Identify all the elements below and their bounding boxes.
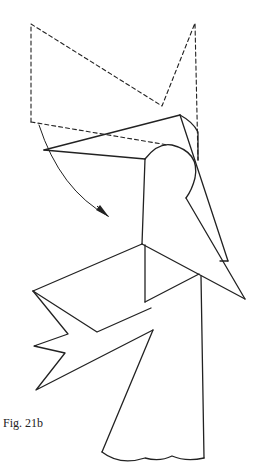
folded-flap (44, 115, 198, 244)
dashed-outline (31, 23, 198, 160)
figure-caption: Fig. 21b (3, 416, 43, 431)
left-wing (33, 244, 153, 390)
body-front (142, 244, 245, 458)
origami-diagram (0, 0, 253, 467)
fold-arrow-icon (39, 125, 109, 217)
skirt (102, 330, 204, 461)
right-strips (180, 115, 245, 299)
